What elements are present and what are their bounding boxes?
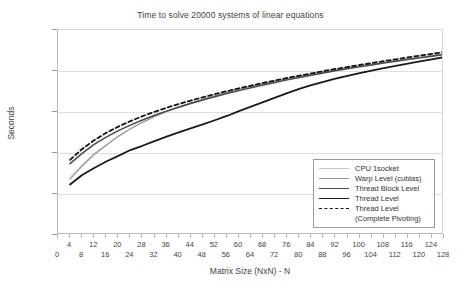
- legend-swatch: [317, 174, 351, 183]
- series-line: [70, 55, 443, 164]
- x-tick-mark: [419, 234, 420, 238]
- x-tick-mark: [262, 234, 263, 238]
- x-tick-mark: [383, 234, 384, 238]
- x-tick-mark: [334, 234, 335, 238]
- legend-item: Thread Level: [317, 204, 430, 213]
- legend-swatch: [317, 194, 351, 203]
- x-tick-mark: [105, 234, 106, 238]
- x-tick-mark: [322, 234, 323, 238]
- x-tick-label: 124: [416, 240, 446, 249]
- x-tick-mark: [141, 234, 142, 238]
- legend-item: Thread Block Level: [317, 184, 430, 193]
- x-tick-mark: [57, 234, 58, 238]
- chart-root: Time to solve 20000 systems of linear eq…: [0, 0, 461, 293]
- legend-swatch: [317, 184, 351, 193]
- x-tick-mark: [178, 234, 179, 238]
- x-tick-mark: [81, 234, 82, 238]
- x-tick-label: 128: [428, 250, 458, 259]
- legend-label: Thread Block Level: [355, 184, 430, 193]
- x-tick-mark: [69, 234, 70, 238]
- x-tick-mark: [250, 234, 251, 238]
- legend-label: Warp Level (cublas): [355, 174, 430, 183]
- x-tick-mark: [154, 234, 155, 238]
- x-tick-mark: [431, 234, 432, 238]
- x-tick-mark: [443, 234, 444, 238]
- x-tick-mark: [298, 234, 299, 238]
- x-tick-mark: [407, 234, 408, 238]
- x-tick-mark: [238, 234, 239, 238]
- chart-legend: CPU 1socketWarp Level (cublas)Thread Blo…: [313, 159, 435, 228]
- legend-item: Thread Level: [317, 194, 430, 203]
- x-tick-mark: [274, 234, 275, 238]
- x-tick-mark: [310, 234, 311, 238]
- x-tick-mark: [166, 234, 167, 238]
- x-tick-mark: [214, 234, 215, 238]
- legend-item: CPU 1socket: [317, 164, 430, 173]
- legend-label-sub: (Complete Pivoting): [317, 214, 430, 223]
- x-tick-mark: [93, 234, 94, 238]
- chart-title: Time to solve 20000 systems of linear eq…: [0, 10, 461, 20]
- legend-item: Warp Level (cublas): [317, 174, 430, 183]
- x-tick-mark: [347, 234, 348, 238]
- x-axis-title: Matrix Size (NxN) - N: [57, 266, 443, 276]
- legend-swatch: [317, 164, 351, 173]
- legend-label: Thread Level: [355, 204, 430, 213]
- legend-swatch: [317, 204, 351, 213]
- x-tick-mark: [395, 234, 396, 238]
- y-axis-title: Seconds: [6, 88, 16, 158]
- x-tick-mark: [226, 234, 227, 238]
- x-tick-mark: [286, 234, 287, 238]
- x-tick-mark: [202, 234, 203, 238]
- x-tick-mark: [359, 234, 360, 238]
- x-tick-mark: [371, 234, 372, 238]
- x-tick-mark: [129, 234, 130, 238]
- x-tick-mark: [190, 234, 191, 238]
- x-tick-mark: [117, 234, 118, 238]
- legend-label: Thread Level: [355, 194, 430, 203]
- legend-label: CPU 1socket: [355, 164, 430, 173]
